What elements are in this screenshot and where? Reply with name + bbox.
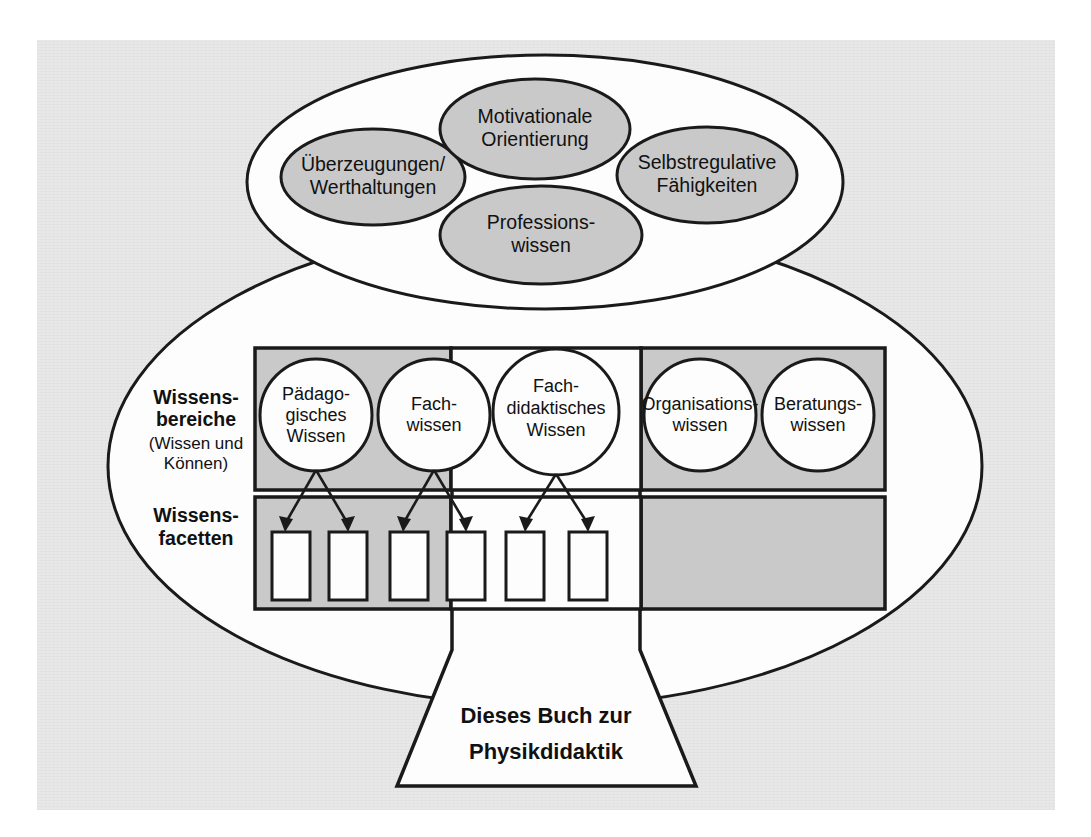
competence-label-line1: Selbstregulative <box>638 151 777 173</box>
competence-label-line2: wissen <box>510 234 571 256</box>
wissensbereiche-note-line1: (Wissen und <box>149 434 243 453</box>
wissensfacetten-bold-line1: Wissens- <box>153 504 238 526</box>
circle-label-line1: Pädago- <box>282 384 350 404</box>
competence-label-line1: Überzeugungen/ <box>301 153 446 175</box>
wissensfacetten-band-right <box>641 497 885 609</box>
book-base-line2: Physikdidaktik <box>469 739 624 764</box>
competence-label-line2: Orientierung <box>481 128 588 150</box>
diagram-svg: Überzeugungen/ Werthaltungen Motivationa… <box>0 0 1091 837</box>
competence-item-professionswissen: Professions- wissen <box>440 186 642 284</box>
competence-item-ueberzeugungen-werthaltungen: Überzeugungen/ Werthaltungen <box>281 129 465 225</box>
competence-label-line2: Fähigkeiten <box>657 174 758 196</box>
knowledge-circle-fachwissen: Fach- wissen <box>378 359 490 471</box>
knowledge-circle-fachdidaktisches-wissen: Fach- didaktisches Wissen <box>493 349 619 475</box>
knowledge-circle-paedagogisches-wissen: Pädago- gisches Wissen <box>260 359 372 471</box>
book-base-line1: Dieses Buch zur <box>460 703 632 728</box>
circle-label-line2: wissen <box>671 415 727 435</box>
circle-label-line1: Fach- <box>411 394 457 414</box>
facet-box-1 <box>272 532 310 600</box>
circle-label-line2: wissen <box>789 415 845 435</box>
wissensbereiche-note-line2: Können) <box>164 454 228 473</box>
competence-label-line1: Motivationale <box>478 105 593 127</box>
circle-label-line1: Organisations- <box>641 394 758 414</box>
competence-label-line2: Werthaltungen <box>310 176 436 198</box>
wissensfacetten-bold-line2: facetten <box>159 527 234 549</box>
facet-box-4 <box>447 532 485 600</box>
circle-label-line2: wissen <box>405 415 461 435</box>
facet-box-2 <box>329 532 367 600</box>
circle-label-line3: Wissen <box>526 420 585 440</box>
side-label-wissensfacetten: Wissens- facetten <box>153 504 238 549</box>
circle-label-line2: gisches <box>285 405 346 425</box>
facet-box-3 <box>390 532 428 600</box>
circle-label-line1: Fach- <box>533 376 579 396</box>
circle-label-line3: Wissen <box>286 426 345 446</box>
knowledge-circle-beratungswissen: Beratungs- wissen <box>762 359 874 471</box>
competence-item-motivationale-orientierung: Motivationale Orientierung <box>440 79 630 179</box>
figure-canvas: Überzeugungen/ Werthaltungen Motivationa… <box>0 0 1091 837</box>
competence-item-selbstregulative-faehigkeiten: Selbstregulative Fähigkeiten <box>617 127 797 223</box>
wissensbereiche-bold-line2: bereiche <box>156 408 236 430</box>
knowledge-circle-organisationswissen: Organisations- wissen <box>641 359 758 471</box>
circle-label-line2: didaktisches <box>506 398 605 418</box>
facet-box-6 <box>569 532 607 600</box>
circle-label-line1: Beratungs- <box>774 394 862 414</box>
wissensbereiche-bold-line1: Wissens- <box>153 386 238 408</box>
facet-box-5 <box>506 532 544 600</box>
competence-label-line1: Professions- <box>487 211 595 233</box>
